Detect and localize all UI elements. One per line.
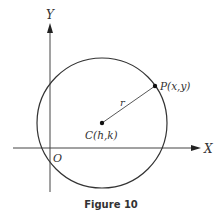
figure-caption: Figure 10 bbox=[84, 199, 138, 210]
radius-line bbox=[102, 86, 155, 123]
center-label: C(h,k) bbox=[85, 129, 118, 141]
point-p bbox=[153, 84, 157, 88]
y-axis-label: Y bbox=[46, 8, 55, 22]
x-axis-label: X bbox=[203, 142, 213, 156]
y-axis-arrow-icon bbox=[47, 23, 53, 33]
center-point bbox=[100, 121, 104, 125]
point-p-label: P(x,y) bbox=[159, 80, 190, 92]
x-axis-arrow-icon bbox=[191, 145, 201, 151]
circle-diagram: Y X O r C(h,k) P(x,y) Figure 10 bbox=[0, 0, 223, 212]
origin-label: O bbox=[53, 152, 62, 165]
